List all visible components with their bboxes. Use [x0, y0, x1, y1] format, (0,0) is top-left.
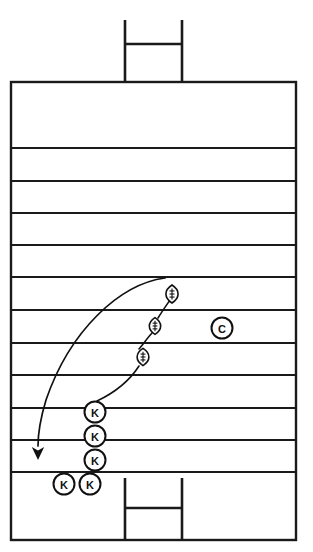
kicker-marker-3-label: K	[91, 455, 99, 467]
kicker-marker-2-label: K	[91, 431, 99, 443]
balls-layer	[137, 285, 178, 366]
kicker-marker-3: K	[85, 450, 106, 471]
kicker-marker-2: K	[85, 426, 106, 447]
play-diagram-root: KKKKKC	[0, 0, 313, 552]
center-marker: C	[212, 318, 233, 339]
kick-return-arc-arrowhead	[32, 447, 44, 460]
football-marker-1	[166, 285, 178, 303]
bottom-goalpost	[125, 478, 182, 540]
kicker-marker-5: K	[80, 474, 101, 495]
top-goalpost	[125, 20, 182, 82]
kicker-marker-5-label: K	[86, 479, 94, 491]
football-marker-3	[137, 348, 149, 365]
kicker-marker-1: K	[85, 402, 106, 423]
football-marker-2	[149, 318, 160, 335]
ball-chain-link-middle	[139, 333, 152, 349]
center-marker-label: C	[218, 323, 226, 335]
football-play-diagram: KKKKKC	[0, 0, 313, 552]
kicker-marker-4: K	[54, 474, 75, 495]
field-layer	[11, 82, 296, 540]
kicker-marker-1-label: K	[91, 407, 99, 419]
ball-chain-link-lower	[97, 366, 139, 401]
kicker-marker-4-label: K	[60, 479, 68, 491]
